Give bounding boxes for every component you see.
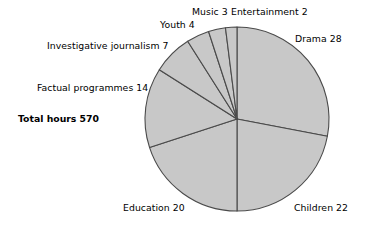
pie-chart-figure: Drama 28 Children 22 Education 20 Factua… <box>0 0 367 227</box>
total-hours-label: Total hours 570 <box>18 113 99 124</box>
slice-label-factual: Factual programmes 14 <box>37 82 148 93</box>
slice-label-children: Children 22 <box>294 202 348 213</box>
pie-slices <box>145 27 329 211</box>
slice-label-entertainment: Entertainment 2 <box>231 6 308 17</box>
slice-label-youth: Youth 4 <box>160 19 195 30</box>
slice-label-music: Music 3 <box>192 6 228 17</box>
slice-label-drama: Drama 28 <box>295 33 342 44</box>
slice-label-education: Education 20 <box>123 202 185 213</box>
slice-label-investigative: Investigative journalism 7 <box>47 40 169 51</box>
